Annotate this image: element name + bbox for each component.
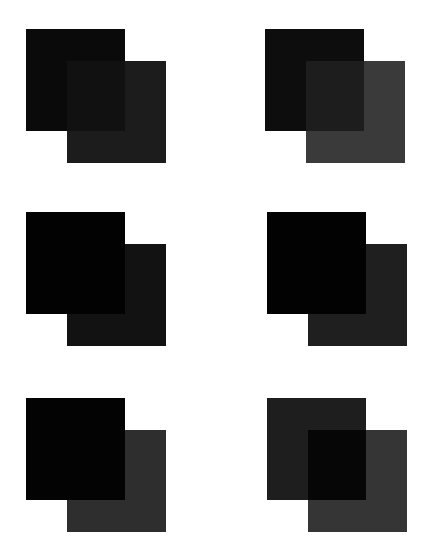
overlap-region bbox=[67, 61, 125, 131]
square-pair-top-right bbox=[265, 29, 407, 165]
square-pair-top-left bbox=[26, 29, 168, 165]
square-pair-bottom-left bbox=[26, 398, 168, 534]
overlap-region bbox=[67, 430, 125, 500]
overlap-region bbox=[308, 430, 366, 500]
overlap-region bbox=[67, 244, 125, 314]
square-pair-middle-right bbox=[267, 212, 409, 348]
overlap-region bbox=[308, 244, 366, 314]
overlap-region bbox=[306, 61, 364, 131]
square-pair-bottom-right bbox=[267, 398, 409, 534]
square-pair-middle-left bbox=[26, 212, 168, 348]
